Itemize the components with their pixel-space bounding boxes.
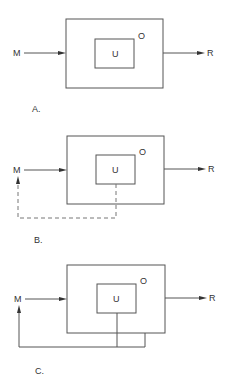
caption: A. (32, 104, 41, 114)
output-label: R (207, 48, 214, 58)
input-label: M (13, 165, 21, 175)
diagram-c: U O M R C. (14, 265, 216, 376)
input-label: M (13, 48, 21, 58)
diagram-b: U O M R B. (13, 136, 215, 245)
inner-label: U (112, 49, 119, 59)
inner-label: U (113, 294, 120, 304)
arrowhead-icon (16, 176, 20, 184)
arrowhead-icon (199, 296, 207, 300)
arrowhead-icon (17, 305, 21, 313)
output-label: R (208, 164, 215, 174)
arrowhead-icon (198, 167, 206, 171)
outer-label: O (139, 147, 146, 157)
outer-label: O (138, 31, 145, 41)
input-label: M (14, 294, 22, 304)
diagram-a: U O M R A. (13, 19, 214, 114)
arrowhead-icon (197, 51, 205, 55)
arrowhead-icon (58, 51, 66, 55)
caption: C. (35, 366, 44, 376)
output-label: R (209, 293, 216, 303)
feedback-solid-line (19, 313, 145, 347)
arrowhead-icon (59, 297, 67, 301)
outer-label: O (140, 276, 147, 286)
caption: B. (34, 235, 43, 245)
inner-label: U (112, 165, 119, 175)
diagram-canvas: U O M R A. U O M R B. U O M R (0, 0, 232, 389)
arrowhead-icon (59, 168, 67, 172)
